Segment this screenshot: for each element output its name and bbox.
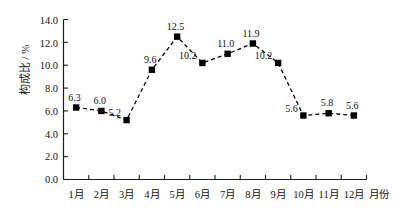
data-point-label: 5.2 [109,108,122,118]
data-point-marker [351,112,357,118]
x-axis-title: 月份 [369,190,389,201]
data-point-label: 10.2 [179,51,197,61]
data-point-marker [199,60,205,66]
data-point-marker [224,51,230,57]
data-point-marker [98,108,104,114]
data-point-marker [250,40,256,46]
data-point-marker [325,110,331,116]
data-point-label: 11.9 [242,29,259,39]
data-point-label: 5.6 [285,104,298,114]
data-point-label: 6.3 [68,93,81,103]
data-point-marker [275,60,281,66]
data-point-label: 5.6 [346,101,359,111]
data-point-marker [174,33,180,39]
data-point-label: 11.0 [217,39,234,49]
data-point-label: 10.2 [255,51,273,61]
data-point-marker [300,112,306,118]
x-tick-label: 12月 [338,190,370,201]
y-axis-ticks [64,20,69,180]
plot-area [0,0,401,219]
x-axis-ticks [64,175,367,180]
data-point-label: 6.0 [94,96,107,106]
data-point-marker [73,104,79,110]
data-point-label: 5.8 [321,98,334,108]
data-point-marker [149,67,155,73]
data-point-label: 12.5 [167,22,185,32]
line-chart: 构成比 / % 14.0 12.0 10.0 8.0 6.0 4.0 2.0 0… [0,0,401,219]
data-point-label: 9.6 [144,55,157,65]
data-point-marker [123,117,129,123]
